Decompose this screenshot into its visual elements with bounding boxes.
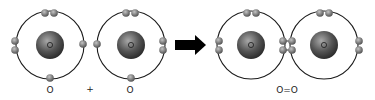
nucleus bbox=[117, 31, 145, 59]
electron bbox=[355, 37, 363, 45]
reactant-2-label: O bbox=[126, 86, 133, 95]
electron bbox=[159, 37, 167, 45]
electron bbox=[252, 9, 260, 17]
electron bbox=[93, 40, 101, 48]
shared-electron bbox=[288, 46, 296, 54]
electron bbox=[50, 9, 58, 17]
electron bbox=[215, 37, 223, 45]
shared-electron bbox=[279, 46, 287, 54]
oxygen-bond-diagram: O + O O=O bbox=[0, 0, 375, 100]
electron bbox=[325, 9, 333, 17]
electron bbox=[46, 74, 54, 82]
electron bbox=[11, 46, 19, 54]
electron bbox=[131, 9, 139, 17]
product-label: O=O bbox=[276, 86, 298, 95]
nucleus bbox=[36, 31, 64, 59]
electron bbox=[79, 40, 87, 48]
reactant-1-label: O bbox=[46, 86, 53, 95]
reaction-arrow-icon bbox=[175, 35, 206, 55]
shared-electron-pairs bbox=[279, 37, 296, 54]
electron bbox=[41, 9, 49, 17]
electron bbox=[243, 9, 251, 17]
diagram-canvas bbox=[0, 0, 375, 100]
electron bbox=[159, 46, 167, 54]
nucleus bbox=[237, 31, 265, 59]
atom-atom-3 bbox=[215, 9, 285, 79]
electron bbox=[127, 74, 135, 82]
atom-atom-4 bbox=[290, 9, 363, 79]
electron bbox=[11, 37, 19, 45]
atom-atom-2 bbox=[93, 9, 167, 82]
shared-electron bbox=[288, 37, 296, 45]
nucleus bbox=[310, 31, 338, 59]
electron bbox=[122, 9, 130, 17]
electron bbox=[215, 46, 223, 54]
shared-electron bbox=[279, 37, 287, 45]
electron bbox=[316, 9, 324, 17]
atom-atom-1 bbox=[11, 9, 87, 82]
electron bbox=[355, 46, 363, 54]
plus-sign: + bbox=[86, 85, 94, 94]
